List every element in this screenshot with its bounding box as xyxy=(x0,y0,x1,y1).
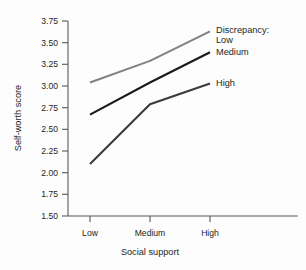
y-tick-label: 2.75 xyxy=(41,103,58,113)
y-tick-label: 3.50 xyxy=(41,38,58,48)
line-chart: 1.50 1.75 2.00 2.25 2.50 2.75 3.00 3.25 … xyxy=(0,0,306,270)
y-tick-label: 3.25 xyxy=(41,59,58,69)
legend-item-high[interactable]: High xyxy=(216,78,235,88)
x-tick-label: High xyxy=(201,228,219,238)
y-tick-label: 1.75 xyxy=(41,189,58,199)
series-line-low xyxy=(90,31,210,82)
chart-figure: 1.50 1.75 2.00 2.25 2.50 2.75 3.00 3.25 … xyxy=(0,0,306,270)
y-axis-ticks xyxy=(62,21,68,216)
legend-item-low[interactable]: Low xyxy=(216,35,233,45)
y-tick-label: 3.75 xyxy=(41,16,58,26)
x-tick-label: Medium xyxy=(135,228,166,238)
legend-item-medium[interactable]: Medium xyxy=(216,47,249,57)
series-line-high xyxy=(90,83,210,164)
y-tick-label: 2.00 xyxy=(41,168,58,178)
x-tick-label: Low xyxy=(82,228,99,238)
y-tick-label: 2.25 xyxy=(41,146,58,156)
y-tick-label: 2.50 xyxy=(41,124,58,134)
x-axis-tick-labels: Low Medium High xyxy=(82,228,219,238)
y-tick-label: 3.00 xyxy=(41,81,58,91)
y-axis-tick-labels: 1.50 1.75 2.00 2.25 2.50 2.75 3.00 3.25 … xyxy=(41,16,58,221)
legend-title: Discrepancy: xyxy=(216,25,269,35)
y-axis-title: Self-worth score xyxy=(13,85,23,151)
y-tick-label: 1.50 xyxy=(41,211,58,221)
x-axis-title: Social support xyxy=(121,247,180,257)
x-axis-ticks xyxy=(90,216,210,222)
